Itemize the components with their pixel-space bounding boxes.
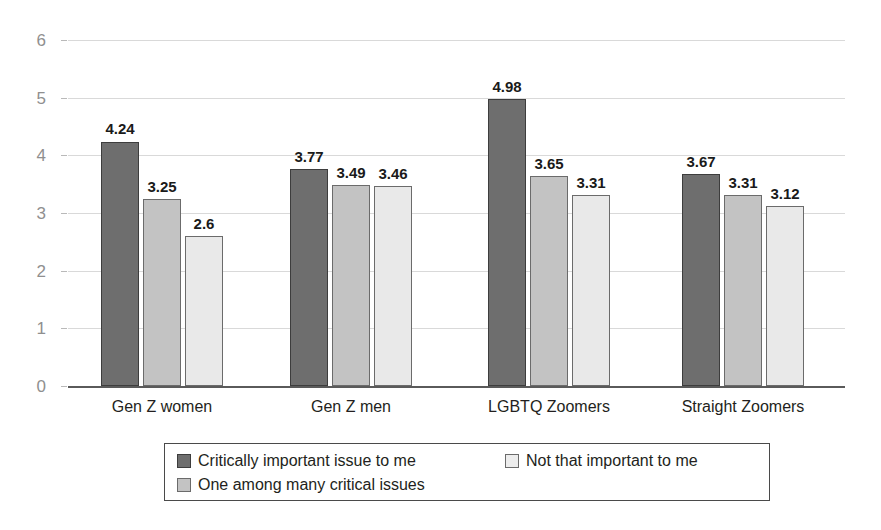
y-axis-tick-mark [61,98,67,99]
y-axis-tick-label: 2 [37,262,46,279]
bar-value-label: 3.49 [336,165,365,180]
bar[interactable] [290,169,328,386]
x-axis-label-lgbtq-zoomers: LGBTQ Zoomers [488,399,610,415]
legend-swatch-icon [505,454,519,468]
y-axis-tick-mark [61,328,67,329]
bar-value-label: 3.25 [147,179,176,194]
y-axis-tick-label: 5 [37,89,46,106]
bar-value-label: 4.98 [492,79,521,94]
x-axis-label-gen-z-men: Gen Z men [311,399,391,415]
x-axis-label-straight-zoomers: Straight Zoomers [682,399,805,415]
bar-value-label: 3.31 [576,175,605,190]
bar[interactable] [185,236,223,386]
bar[interactable] [724,195,762,386]
bar-value-label: 4.24 [105,121,134,136]
y-axis-tick-label: 6 [37,32,46,49]
bar[interactable] [101,142,139,387]
bar-value-label: 3.67 [686,154,715,169]
bar[interactable] [143,199,181,386]
y-axis-tick-mark [61,155,67,156]
plot-area: 4.243.252.63.773.493.464.983.653.313.673… [68,40,845,386]
legend-swatch-icon [177,454,191,468]
gridline [68,155,845,156]
bar-value-label: 3.31 [728,175,757,190]
legend-label: One among many critical issues [198,477,425,493]
legend-item[interactable]: One among many critical issues [177,477,425,493]
y-axis-tick-label: 4 [37,147,46,164]
legend-label: Critically important issue to me [198,453,416,469]
y-axis-tick-mark [61,271,67,272]
bar[interactable] [530,176,568,386]
bar[interactable] [488,99,526,386]
bar[interactable] [374,186,412,386]
bar-value-label: 2.6 [194,216,215,231]
bar-value-label: 3.46 [378,166,407,181]
gridline [68,40,845,41]
y-axis-tick-mark [61,386,67,387]
bar-value-label: 3.77 [294,149,323,164]
bar-chart: 0123456 4.243.252.63.773.493.464.983.653… [0,0,881,530]
y-axis-tick-label: 1 [37,320,46,337]
x-axis-line [68,386,845,388]
y-axis-tick-mark [61,213,67,214]
legend-swatch-icon [177,478,191,492]
bar-value-label: 3.65 [534,156,563,171]
legend-label: Not that important to me [526,453,698,469]
y-axis: 0123456 [0,40,58,386]
bar[interactable] [682,174,720,386]
legend-item[interactable]: Critically important issue to me [177,453,416,469]
gridline [68,98,845,99]
bar-value-label: 3.12 [770,186,799,201]
bar[interactable] [332,185,370,386]
y-axis-tick-label: 3 [37,205,46,222]
legend-item[interactable]: Not that important to me [505,453,698,469]
bar[interactable] [572,195,610,386]
legend: Critically important issue to meNot that… [164,443,770,501]
x-axis-label-gen-z-women: Gen Z women [112,399,212,415]
bar[interactable] [766,206,804,386]
y-axis-tick-label: 0 [37,378,46,395]
y-axis-tick-mark [61,40,67,41]
